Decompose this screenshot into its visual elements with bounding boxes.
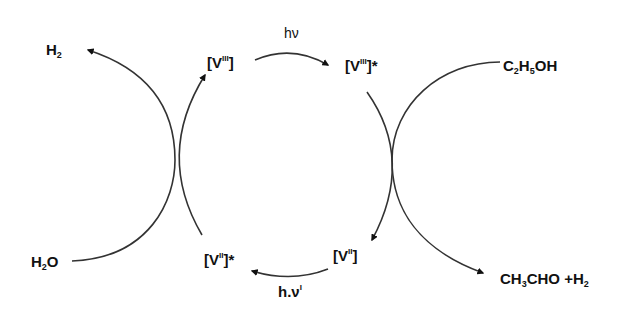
node-v3-excited: [VIII]* [345,58,378,73]
label-h2-top: H2 [46,42,62,60]
arrow-ethanol-to-acetaldehyde [392,62,500,273]
label-ethanol: C2H5OH [503,58,557,76]
node-v2-excited: [VII]* [204,252,234,267]
node-v3: [VIII] [207,55,234,70]
arrow-v2star-to-v3 [179,75,205,235]
arrow-excitation-v2 [252,269,328,277]
node-v2: [VII] [333,248,357,263]
label-light-top: hν [284,26,299,40]
arrow-v3star-to-v2 [367,92,392,240]
label-products: CH3CHO +H2 [500,271,589,289]
arrow-h2o-to-h2 [72,50,175,261]
label-h2o: H2O [31,254,59,272]
cycle-diagram [0,0,641,309]
arrow-excitation-v3 [255,53,328,65]
label-light-bottom: h.νI [278,284,302,299]
